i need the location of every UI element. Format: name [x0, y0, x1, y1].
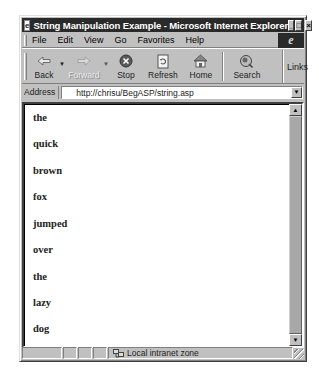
word-item: jumped [33, 218, 67, 229]
zone-label: Local intranet zone [127, 348, 199, 358]
address-label: Address [22, 86, 59, 99]
menubar-grip[interactable] [24, 35, 27, 46]
status-zone-pane: Local intranet zone [108, 347, 293, 359]
menu-go[interactable]: Go [114, 35, 126, 45]
word-item: brown [33, 165, 62, 176]
forward-button[interactable]: Forward [65, 50, 103, 83]
stop-icon [119, 53, 133, 69]
menu-help[interactable]: Help [185, 35, 204, 45]
stop-label: Stop [117, 70, 135, 80]
forward-arrow-icon [76, 53, 92, 69]
browser-window: e String Manipulation Example - Microsof… [19, 15, 307, 362]
back-arrow-icon [36, 53, 52, 69]
standard-toolbar: Back ▼ Forward ▼ Stop Refresh Ho [22, 50, 304, 84]
menu-file[interactable]: File [32, 35, 47, 45]
word-item: lazy [33, 297, 51, 308]
ie-page-icon: e [24, 20, 30, 31]
home-icon [193, 53, 208, 69]
home-button[interactable]: Home [183, 50, 219, 83]
ie-logo-icon: e [278, 33, 304, 48]
links-button[interactable]: Links [282, 50, 304, 83]
menu-edit[interactable]: Edit [58, 35, 74, 45]
status-pane-main [22, 347, 62, 359]
scroll-up-button[interactable]: ▲ [289, 104, 302, 116]
resize-grip[interactable] [294, 349, 304, 359]
window-title: String Manipulation Example - Microsoft … [33, 20, 288, 31]
minimize-button[interactable]: _ [288, 20, 294, 31]
close-button[interactable]: × [305, 20, 312, 31]
search-label: Search [233, 70, 260, 80]
scroll-thumb[interactable] [289, 116, 302, 334]
search-globe-icon [239, 53, 254, 69]
address-bar: Address http://chrisu/BegASP/string.asp … [22, 85, 304, 100]
search-button[interactable]: Search [227, 50, 267, 83]
status-bar: Local intranet zone [22, 347, 304, 359]
address-dropdown-button[interactable]: ▼ [291, 87, 302, 98]
title-bar[interactable]: e String Manipulation Example - Microsof… [22, 18, 304, 32]
address-url[interactable]: http://chrisu/BegASP/string.asp [62, 88, 291, 98]
menu-favorites[interactable]: Favorites [137, 35, 174, 45]
word-item: the [33, 112, 47, 123]
page-body: the quick brown fox jumped over the lazy… [24, 104, 289, 346]
vertical-scrollbar[interactable]: ▲ ▼ [289, 104, 302, 346]
refresh-label: Refresh [148, 70, 178, 80]
address-field[interactable]: http://chrisu/BegASP/string.asp ▼ [61, 86, 303, 99]
scroll-down-button[interactable]: ▼ [289, 334, 302, 346]
refresh-icon [157, 53, 169, 69]
word-item: over [33, 244, 53, 255]
page-viewport: the quick brown fox jumped over the lazy… [22, 102, 304, 348]
intranet-zone-icon [113, 349, 124, 358]
status-pane-ssl [78, 347, 92, 359]
toolbar-separator [222, 52, 224, 81]
word-item: quick [33, 138, 58, 149]
maximize-button[interactable]: □ [295, 20, 302, 31]
toolbar-grip[interactable] [24, 53, 27, 80]
word-item: dog [33, 323, 49, 334]
stop-button[interactable]: Stop [109, 50, 143, 83]
status-pane-progress [63, 347, 77, 359]
home-label: Home [190, 70, 213, 80]
menu-bar: File Edit View Go Favorites Help e [22, 33, 304, 48]
word-item: the [33, 271, 47, 282]
refresh-button[interactable]: Refresh [143, 50, 183, 83]
word-item: fox [33, 191, 47, 202]
status-pane-offline [93, 347, 107, 359]
back-button[interactable]: Back [29, 50, 59, 83]
menu-view[interactable]: View [84, 35, 103, 45]
forward-label: Forward [68, 70, 99, 80]
back-label: Back [35, 70, 54, 80]
